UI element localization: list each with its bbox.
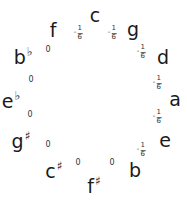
interval-deviation-zero: 0	[75, 159, 80, 167]
sharp-icon: ♯	[95, 174, 101, 188]
flat-icon: ♭	[15, 89, 21, 103]
fraction-numerator: 1	[141, 44, 145, 51]
fraction-stack: 16	[140, 142, 145, 158]
interval-deviation-zero: 0	[27, 111, 32, 119]
fraction-denominator: 6	[141, 53, 145, 60]
interval-deviation-fraction: -16	[153, 75, 162, 91]
sharp-icon: ♯	[57, 159, 63, 173]
note-label: a	[169, 90, 181, 109]
minus-sign: -	[153, 80, 156, 87]
fraction-stack: 16	[156, 75, 161, 91]
minus-sign: -	[153, 114, 156, 121]
minus-sign: -	[137, 49, 140, 56]
note-letter: g	[127, 18, 139, 40]
fraction-denominator: 6	[78, 34, 82, 41]
note-label: b	[129, 161, 141, 180]
minus-sign: -	[108, 30, 111, 37]
minus-sign: -	[74, 30, 77, 37]
interval-deviation-zero: 0	[45, 46, 50, 54]
interval-deviation-fraction: -16	[137, 44, 146, 60]
interval-deviation-zero: 0	[45, 141, 50, 149]
minus-sign: -	[137, 147, 140, 154]
note-label: g	[127, 20, 139, 39]
note-letter: a	[169, 88, 181, 110]
circle-of-fifths-diagram: cgdaebf♯c♯g♯e♭b♭f-16-16-16-16-16000000-1…	[0, 0, 187, 200]
fraction-numerator: 1	[112, 25, 116, 32]
fraction-stack: 16	[77, 25, 82, 41]
fraction-denominator: 6	[112, 34, 116, 41]
fraction-numerator: 1	[141, 142, 145, 149]
note-label: g♯	[12, 130, 31, 151]
note-label: d	[157, 48, 169, 67]
note-label: f	[50, 21, 57, 40]
note-letter: c	[90, 4, 100, 26]
interval-deviation-zero: 0	[109, 159, 114, 167]
note-label: c	[90, 6, 100, 25]
fraction-stack: 16	[140, 44, 145, 60]
interval-deviation-fraction: -16	[153, 109, 162, 125]
note-letter: e	[159, 129, 171, 151]
fraction-denominator: 6	[157, 118, 161, 125]
fraction-numerator: 1	[78, 25, 82, 32]
fraction-stack: 16	[111, 25, 116, 41]
interval-deviation-zero: 0	[28, 76, 33, 84]
fraction-numerator: 1	[157, 109, 161, 116]
note-letter: f	[50, 19, 57, 41]
fraction-numerator: 1	[157, 75, 161, 82]
note-letter: b	[129, 159, 141, 181]
note-label: c♯	[45, 160, 62, 181]
note-letter: g	[12, 130, 24, 152]
note-letter: c	[45, 160, 55, 182]
fraction-denominator: 6	[141, 151, 145, 158]
note-letter: b	[14, 46, 26, 68]
note-letter: d	[157, 46, 169, 68]
interval-deviation-fraction: -16	[108, 25, 117, 41]
interval-deviation-fraction: -16	[137, 142, 146, 158]
note-label: e♭	[2, 90, 20, 111]
fraction-stack: 16	[156, 109, 161, 125]
note-label: e	[159, 131, 171, 150]
fraction-denominator: 6	[157, 84, 161, 91]
sharp-icon: ♯	[25, 129, 31, 143]
note-letter: f	[87, 175, 94, 197]
note-label: f♯	[87, 175, 101, 196]
note-label: b♭	[14, 46, 33, 67]
interval-deviation-fraction: -16	[74, 25, 83, 41]
note-letter: e	[2, 90, 14, 112]
flat-icon: ♭	[27, 45, 33, 59]
